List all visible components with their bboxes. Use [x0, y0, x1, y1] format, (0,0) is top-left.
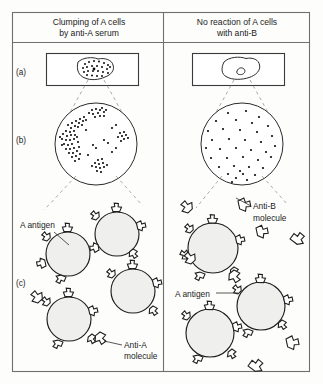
projection-line-left-3 [44, 176, 76, 210]
heading-right-line2: with anti-B [216, 28, 257, 38]
cell-left-2 [37, 223, 91, 283]
antibody-left-free [31, 291, 42, 303]
row-label-b: (b) [16, 136, 26, 145]
cell-left-1 [90, 203, 146, 258]
right-column: Anti-B molecule A antigen [175, 54, 304, 372]
projection-line-left-4 [116, 176, 142, 205]
right-row-c: Anti-B molecule A antigen [175, 198, 304, 371]
label-anti-a-line2: molecule [124, 351, 158, 361]
microscope-field-left [55, 103, 137, 185]
cell-left-4 [42, 288, 98, 348]
antibody-right-free-3 [256, 225, 268, 238]
agglutination-figure: Clumping of A cells by anti-A serum No r… [0, 0, 323, 384]
label-anti-a-line1: Anti-A [124, 340, 147, 350]
label-anti-b-line2: molecule [253, 213, 287, 223]
label-a-antigen-left: A antigen [20, 220, 55, 230]
left-row-b [44, 103, 142, 210]
label-anti-b-line1: Anti-B [253, 201, 276, 211]
heading-right-line1: No reaction of A cells [197, 17, 277, 27]
suspension-inner-right [237, 68, 245, 75]
right-row-b [196, 103, 288, 208]
cell-left-3 [107, 260, 162, 315]
microscope-field-right [201, 103, 283, 185]
antibody-right-free-1 [181, 201, 192, 213]
antibody-bridge-bottom [95, 332, 106, 344]
projection-line-right-3 [196, 176, 222, 208]
antibody-right-free-8 [248, 359, 263, 371]
label-a-antigen-right: A antigen [175, 289, 210, 299]
antibody-right-free-4 [290, 233, 304, 245]
left-row-c: A antigen Anti-A molecule [20, 203, 162, 361]
heading-left-line1: Clumping of A cells [53, 17, 126, 27]
row-label-a: (a) [16, 68, 26, 77]
cell-right-3 [182, 301, 242, 363]
leader-anti-a [104, 341, 122, 345]
heading-left-line2: by anti-A serum [59, 28, 119, 38]
row-label-c: (c) [16, 279, 26, 288]
figure-canvas: Clumping of A cells by anti-A serum No r… [0, 0, 323, 384]
antibody-right-free-7 [286, 336, 299, 350]
left-column: A antigen Anti-A molecule [20, 54, 162, 362]
